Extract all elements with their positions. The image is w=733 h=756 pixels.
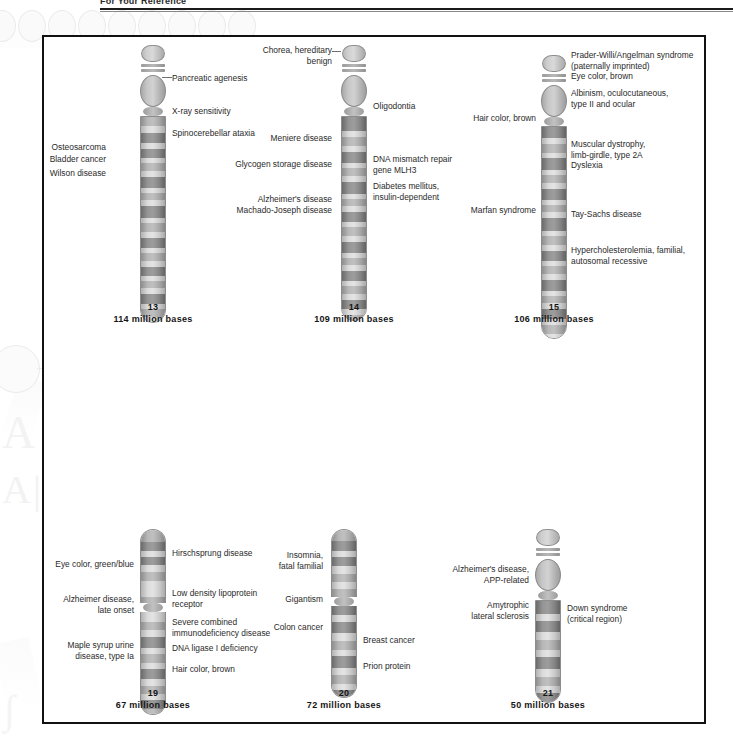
chr13-label-wilson-disease: Wilson disease <box>16 168 106 179</box>
chromosome-21-body <box>535 529 561 703</box>
chromosome-13-number: 13 <box>53 301 253 313</box>
chromosome-20-q-arm <box>331 606 357 698</box>
chromosome-20-caption: 20 72 million bases <box>244 687 444 711</box>
chr15-label-albinism: Albinism, oculocutaneous, type II and oc… <box>571 88 668 109</box>
chromosome-21-p-arm <box>535 559 561 591</box>
chr13-label-xray-sensitivity: X-ray sensitivity <box>172 106 231 117</box>
chromosome-14-stalk-1 <box>342 64 366 67</box>
chr19-label-maple-syrup-urine: Maple syrup urine disease, type Ia <box>26 640 134 661</box>
chromosome-19-centromere <box>140 603 166 612</box>
chromosome-15-size: 106 million bases <box>454 313 654 325</box>
chr14-label-alzheimers-disease: Alzheimer's disease <box>202 194 332 205</box>
page-header: For Your Reference <box>0 0 733 14</box>
chr20-label-colon-cancer: Colon cancer <box>229 622 323 633</box>
chromosome-13-size: 114 million bases <box>53 313 253 325</box>
chr20-label-prion-protein: Prion protein <box>363 661 411 672</box>
chr15-label-prader-willi-angelman: Prader-Willi/Angelman syndrome (paternal… <box>571 50 693 82</box>
header-title: For Your Reference <box>100 0 186 5</box>
chr15-label-marfan-syndrome: Marfan syndrome <box>444 205 536 216</box>
chr14-label-meniere-disease: Meniere disease <box>212 133 332 144</box>
chromosome-14-centromere <box>341 107 367 116</box>
chromosome-15-satellite <box>542 55 566 72</box>
chromosome-19-number: 19 <box>53 687 253 699</box>
chromosome-19-p-arm <box>140 529 166 603</box>
chromosome-13-satellite <box>141 45 165 62</box>
chr14-leader-1 <box>332 51 341 52</box>
chr14-label-machado-joseph-disease: Machado-Joseph disease <box>192 205 332 216</box>
chr13-leader-1 <box>162 77 172 78</box>
chromosome-14-p-arm <box>341 75 367 107</box>
chromosome-figure-panel: Pancreatic agenesis X-ray sensitivity Sp… <box>42 35 706 724</box>
header-rule-thin <box>100 11 733 12</box>
chromosome-15-body <box>541 55 567 339</box>
chr20-label-insomnia-fatal-familial: Insomnia, fatal familial <box>229 550 323 571</box>
chromosome-13-stalk-2 <box>141 69 165 72</box>
watermark-letter-ai: A| <box>2 470 43 510</box>
chromosome-14-size: 109 million bases <box>254 313 454 325</box>
chr19-label-dna-ligase-deficiency: DNA ligase I deficiency <box>172 643 258 654</box>
watermark-letter-a: A <box>2 410 35 456</box>
chr13-label-osteosarcoma: Osteosarcoma <box>16 142 106 153</box>
chromosome-13-p-arm <box>140 75 166 107</box>
chromosome-21-stalk-1 <box>536 548 560 551</box>
chr14-label-oligodontia: Oligodontia <box>373 101 415 112</box>
chr13-label-pancreatic-agenesis: Pancreatic agenesis <box>172 73 247 84</box>
chromosome-15-stalk-1 <box>542 74 566 77</box>
chromosome-15-number: 15 <box>454 301 654 313</box>
chromosome-15-p-arm <box>541 85 567 117</box>
chromosome-20-size: 72 million bases <box>244 699 444 711</box>
chromosome-20-p-arm <box>331 529 357 597</box>
chromosome-15-caption: 15 106 million bases <box>454 301 654 325</box>
chromosome-20-number: 20 <box>244 687 444 699</box>
chromosome-13-centromere <box>140 107 166 116</box>
chr20-label-gigantism: Gigantism <box>229 594 323 605</box>
chromosome-13-stalk-1 <box>141 64 165 67</box>
chromosome-19-caption: 19 67 million bases <box>53 687 253 711</box>
chr20-label-breast-cancer: Breast cancer <box>363 635 415 646</box>
chromosome-20-centromere <box>331 597 357 606</box>
chr14-label-dna-mismatch-repair: DNA mismatch repair gene MLH3 <box>373 154 452 175</box>
chr19-label-alzheimer-late-onset: Alzheimer disease, late onset <box>26 594 134 615</box>
chromosome-21-centromere <box>535 591 561 600</box>
chr19-label-eye-color-green-blue: Eye color, green/blue <box>26 559 134 570</box>
chr14-label-chorea-hereditary-benign: Chorea, hereditary benign <box>214 45 332 66</box>
chromosome-13-q-arm <box>140 116 166 323</box>
chr14-label-diabetes-mellitus: Diabetes mellitus, insulin-dependent <box>373 181 439 202</box>
chr19-label-hair-color-brown: Hair color, brown <box>172 664 235 675</box>
chromosome-21-size: 50 million bases <box>448 699 648 711</box>
chromosome-13-caption: 13 114 million bases <box>53 301 253 325</box>
watermark-letter-bottom: ∫ <box>4 690 15 730</box>
chromosome-14-number: 14 <box>254 301 454 313</box>
chr21-label-amytrophic-lateral-sclerosis: Amytrophic lateral sclerosis <box>417 600 529 621</box>
chromosome-14-stalk-2 <box>342 69 366 72</box>
chromosome-14-body <box>341 45 367 321</box>
chr13-label-bladder-cancer: Bladder cancer <box>16 154 106 165</box>
chromosome-14-caption: 14 109 million bases <box>254 301 454 325</box>
chromosome-13-body <box>140 45 166 323</box>
header-rule-thick <box>100 8 733 10</box>
chromosome-15-stalk-2 <box>542 79 566 82</box>
chr15-label-muscular-dystrophy: Muscular dystrophy, limb-girdle, type 2A… <box>571 139 645 171</box>
chromosome-20-body <box>331 529 357 698</box>
chromosome-14-satellite <box>342 45 366 62</box>
chromosome-21-satellite <box>536 529 560 546</box>
chromosome-19-size: 67 million bases <box>53 699 253 711</box>
chr21-label-down-syndrome: Down syndrome (critical region) <box>567 603 628 624</box>
watermark-ring <box>0 345 40 393</box>
chromosome-21-caption: 21 50 million bases <box>448 687 648 711</box>
chromosome-15-centromere <box>541 117 567 126</box>
chr15-label-tay-sachs-disease: Tay-Sachs disease <box>571 209 641 220</box>
chr21-label-alzheimer-app-related: Alzheimer's disease, APP-related <box>417 564 529 585</box>
chr14-label-glycogen-storage-disease: Glycogen storage disease <box>192 159 332 170</box>
chromosome-21-stalk-2 <box>536 553 560 556</box>
chr15-label-hair-color-brown: Hair color, brown <box>444 113 536 124</box>
chromosome-21-number: 21 <box>448 687 648 699</box>
chromosome-14-q-arm <box>341 116 367 321</box>
chr15-label-hypercholesterolemia: Hypercholesterolemia, familial, autosoma… <box>571 245 685 266</box>
